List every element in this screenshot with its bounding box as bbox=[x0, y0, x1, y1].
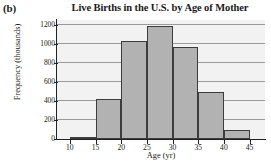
y-axis-tick: 400 bbox=[57, 101, 58, 102]
figure-container: (b) Live Births in the U.S. by Age of Mo… bbox=[0, 0, 271, 162]
y-axis-tick-label: 0 bbox=[51, 135, 55, 143]
bar bbox=[121, 41, 147, 139]
bar bbox=[173, 47, 199, 139]
y-axis-tick-label: 1000 bbox=[40, 40, 55, 48]
bar bbox=[224, 130, 250, 139]
x-axis-title: Age (yr) bbox=[57, 151, 265, 161]
y-axis-tick-label: 400 bbox=[44, 97, 55, 105]
y-axis-tick: 1200 bbox=[57, 25, 58, 26]
y-axis-tick-label: 800 bbox=[44, 59, 55, 67]
gridline bbox=[57, 24, 265, 25]
y-axis-title: Frequency (thousands) bbox=[12, 2, 24, 122]
y-axis-tick: 1000 bbox=[57, 44, 58, 45]
y-axis-tick-label: 200 bbox=[44, 116, 55, 124]
bar bbox=[147, 26, 173, 139]
plot-area bbox=[57, 20, 265, 139]
bar bbox=[96, 99, 122, 139]
bar bbox=[198, 92, 224, 139]
y-axis-tick: 800 bbox=[57, 63, 58, 64]
chart-title: Live Births in the U.S. by Age of Mother bbox=[52, 1, 268, 14]
y-axis-line bbox=[56, 19, 57, 140]
y-axis-tick: 600 bbox=[57, 82, 58, 83]
y-axis-tick-label: 1200 bbox=[40, 21, 55, 29]
x-axis-line bbox=[56, 139, 266, 140]
y-axis-tick: 200 bbox=[57, 120, 58, 121]
y-axis-tick: 0 bbox=[57, 139, 58, 140]
y-axis-tick-label: 600 bbox=[44, 78, 55, 86]
